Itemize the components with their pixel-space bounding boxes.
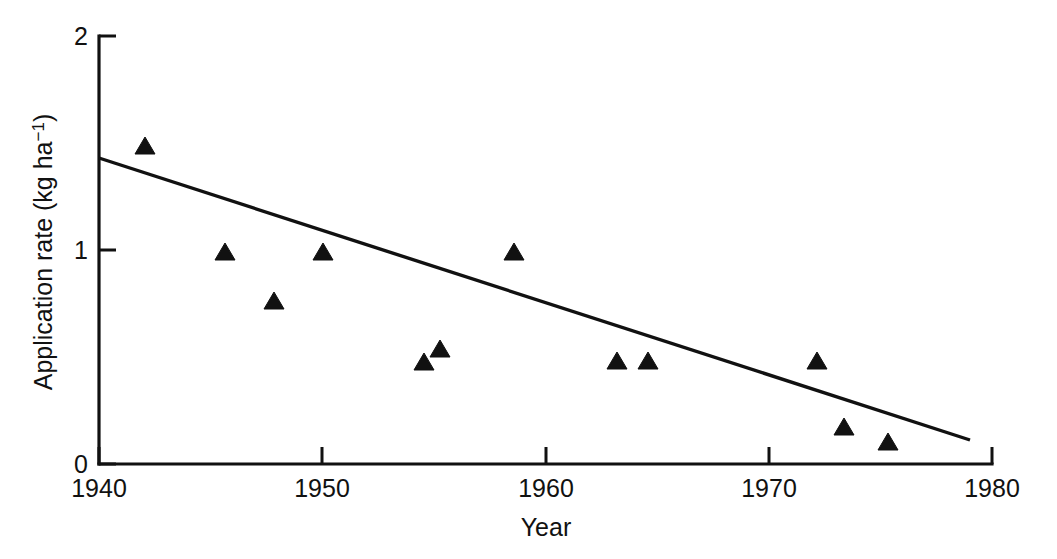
data-point	[878, 433, 898, 450]
y-axis-title-tail: )	[29, 114, 57, 122]
x-axis-title: Year	[521, 513, 572, 541]
x-tick-label-1940: 1940	[71, 474, 127, 502]
y-axis-title-main: Application rate (kg ha	[29, 141, 57, 390]
x-tick-label-1950: 1950	[294, 474, 350, 502]
trend-line	[99, 158, 970, 440]
x-tick-label-1960: 1960	[518, 474, 574, 502]
x-tick-label-1970: 1970	[741, 474, 797, 502]
y-axis-title: Application rate (kg ha−1)	[29, 114, 57, 390]
data-point	[638, 352, 658, 369]
y-axis-title-exponent: −1	[29, 122, 48, 141]
x-tick-label-1980: 1980	[964, 474, 1020, 502]
y-tick-marks	[99, 36, 116, 464]
scatter-plot-canvas: 2 1 0 1940 1950 1960 1970 1980 Year Appl…	[0, 0, 1057, 559]
y-tick-label-2: 2	[74, 22, 88, 50]
data-point	[807, 352, 827, 369]
data-point	[215, 243, 235, 260]
x-tick-marks	[99, 447, 992, 464]
data-point	[504, 243, 524, 260]
data-point	[607, 352, 627, 369]
svg-text:Application rate (kg ha−1): Application rate (kg ha−1)	[29, 114, 57, 390]
data-point	[834, 418, 854, 435]
data-point	[135, 137, 155, 154]
chart-figure: 2 1 0 1940 1950 1960 1970 1980 Year Appl…	[0, 0, 1057, 559]
y-tick-label-1: 1	[74, 236, 88, 264]
data-point	[430, 340, 450, 357]
data-point	[313, 243, 333, 260]
data-point	[264, 292, 284, 309]
